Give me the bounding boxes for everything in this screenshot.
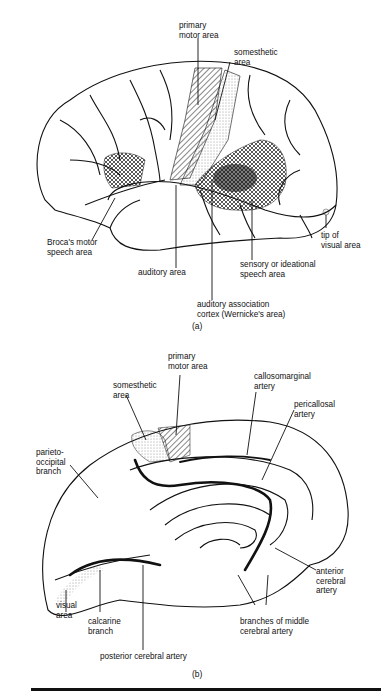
label-broca-area: Broca's motor speech area xyxy=(47,238,97,257)
pericallosal-artery-path xyxy=(135,460,271,570)
label-auditory-area: auditory area xyxy=(138,268,186,278)
label-primary-motor-area-b: primary motor area xyxy=(168,352,208,371)
label-anterior-cerebral-artery: anterior cerebral artery xyxy=(316,567,346,596)
label-wernicke-area: auditory association cortex (Wernicke's … xyxy=(197,300,285,319)
label-somesthetic-area-b: somesthetic area xyxy=(113,381,157,400)
visual-tip-region xyxy=(323,209,329,215)
label-posterior-cerebral-artery: posterior cerebral artery xyxy=(100,652,187,662)
label-somesthetic-area-a: somesthetic area xyxy=(234,48,278,67)
label-pericallosal-artery: pericallosal artery xyxy=(294,400,335,419)
caption-b: (b) xyxy=(192,669,202,679)
label-primary-motor-area-a: primary motor area xyxy=(179,21,219,40)
label-visual-tip: tip of visual area xyxy=(321,231,361,250)
medial-brain xyxy=(43,420,348,615)
label-parieto-occipital-branch: parieto- occipital branch xyxy=(36,448,66,477)
page-rule xyxy=(31,688,381,691)
label-callosomarginal-artery: callosomarginal artery xyxy=(254,372,311,391)
label-visual-area-b: visual area xyxy=(56,601,77,620)
caption-a: (a) xyxy=(192,321,202,331)
label-sensory-speech-area: sensory or ideational speech area xyxy=(240,260,316,279)
label-middle-cerebral-branches: branches of middle cerebral artery xyxy=(240,617,309,636)
broca-area-region xyxy=(104,153,145,188)
label-calcarine-branch: calcarine branch xyxy=(88,617,121,636)
